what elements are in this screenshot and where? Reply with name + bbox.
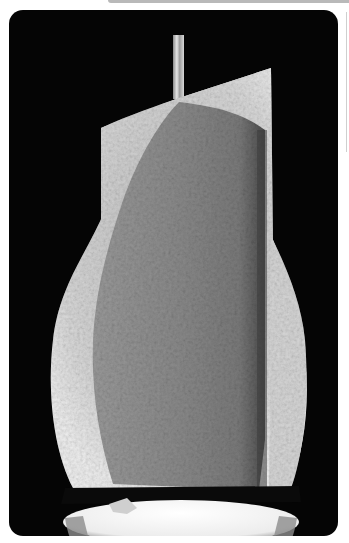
cut-edge-shadow <box>257 130 267 490</box>
photo-frame <box>9 10 338 536</box>
support-rod <box>173 35 184 99</box>
adjacent-panel-border <box>346 12 347 152</box>
sem-photograph <box>9 10 338 536</box>
pedestal-top <box>63 500 299 536</box>
shell-right-sliver <box>269 240 306 488</box>
adjacent-panel-edge <box>108 0 349 3</box>
